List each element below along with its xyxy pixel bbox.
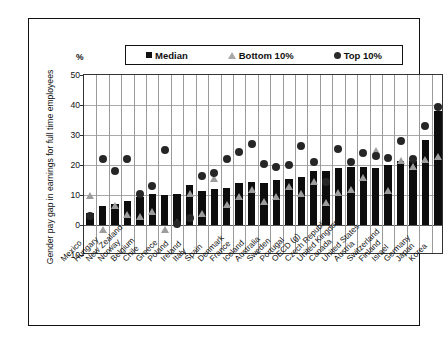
marker-top10 (198, 172, 206, 180)
legend-label-bottom10: Bottom 10% (239, 50, 294, 61)
marker-top10 (434, 103, 442, 111)
gridline-x (196, 75, 197, 253)
legend-label-top10: Top 10% (344, 50, 382, 61)
marker-top10 (359, 149, 367, 157)
plot-area: 50403020100-10 (83, 74, 443, 254)
gridline-y (84, 135, 442, 136)
marker-bottom10 (359, 174, 367, 181)
marker-bottom10 (123, 211, 131, 218)
marker-top10 (347, 158, 355, 166)
gridline-x (245, 75, 246, 253)
bar-median (136, 197, 143, 226)
y-tick-label: 10 (70, 190, 80, 200)
bar-median (235, 183, 242, 225)
y-tick-label: 30 (70, 130, 80, 140)
gridline-x (146, 75, 147, 253)
marker-bottom10 (322, 199, 330, 206)
bar-median (198, 191, 205, 226)
bar-median (273, 180, 280, 225)
y-axis-title: Gender pay gap in earnings for full time… (45, 67, 55, 267)
marker-top10 (372, 152, 380, 160)
y-tick-mark (80, 105, 84, 106)
y-tick-mark (80, 225, 84, 226)
gridline-x (382, 75, 383, 253)
circle-marker-icon (334, 52, 341, 59)
marker-bottom10 (434, 153, 442, 160)
marker-bottom10 (86, 192, 94, 199)
marker-top10 (384, 154, 392, 162)
marker-bottom10 (310, 178, 318, 185)
marker-top10 (409, 155, 417, 163)
marker-bottom10 (297, 190, 305, 197)
marker-top10 (421, 122, 429, 130)
marker-top10 (272, 163, 280, 171)
gridline-x (295, 75, 296, 253)
marker-top10 (223, 155, 231, 163)
marker-bottom10 (198, 210, 206, 217)
bar-median (372, 168, 379, 225)
gridline-x (370, 75, 371, 253)
marker-bottom10 (421, 156, 429, 163)
marker-bottom10 (161, 226, 169, 233)
marker-top10 (260, 160, 268, 168)
bar-median (422, 140, 429, 226)
marker-top10 (248, 140, 256, 148)
marker-top10 (210, 169, 218, 177)
bar-median (161, 195, 168, 225)
marker-bottom10 (384, 187, 392, 194)
legend-label-median: Median (155, 50, 188, 61)
marker-bottom10 (235, 193, 243, 200)
gridline-x (307, 75, 308, 253)
marker-bottom10 (409, 163, 417, 170)
marker-bottom10 (272, 193, 280, 200)
gridline-x (394, 75, 395, 253)
marker-top10 (297, 142, 305, 150)
gridline-x (221, 75, 222, 253)
gridline-x (258, 75, 259, 253)
bar-median (211, 189, 218, 225)
gridline-y (84, 105, 442, 106)
marker-top10 (322, 178, 330, 186)
bar-median (347, 167, 354, 226)
bar-median (298, 177, 305, 225)
gridline-y (84, 225, 442, 226)
marker-top10 (397, 137, 405, 145)
gridline-x (283, 75, 284, 253)
square-marker-icon (146, 52, 152, 58)
y-tick-label: 50 (70, 70, 80, 80)
gridline-x (183, 75, 184, 253)
gridline-x (345, 75, 346, 253)
marker-bottom10 (223, 201, 231, 208)
marker-top10 (310, 158, 318, 166)
marker-top10 (161, 146, 169, 154)
marker-top10 (186, 214, 194, 222)
marker-top10 (123, 155, 131, 163)
y-tick-mark (80, 195, 84, 196)
y-tick-mark (80, 75, 84, 76)
chart-legend: Median Bottom 10% Top 10% (125, 45, 403, 65)
gridline-x (171, 75, 172, 253)
y-tick-mark (80, 135, 84, 136)
gridline-x (432, 75, 433, 253)
marker-bottom10 (334, 189, 342, 196)
marker-top10 (136, 190, 144, 198)
bar-median (397, 161, 404, 226)
marker-top10 (235, 148, 243, 156)
gridline-x (109, 75, 110, 253)
y-tick-mark (80, 165, 84, 166)
axis-unit-label: % (76, 52, 84, 62)
marker-bottom10 (347, 186, 355, 193)
legend-item-bottom10: Bottom 10% (228, 50, 294, 61)
legend-item-top10: Top 10% (334, 50, 382, 61)
gridline-x (419, 75, 420, 253)
marker-top10 (148, 182, 156, 190)
chart-frame: Median Bottom 10% Top 10% % Gender pay g… (28, 18, 420, 326)
gridline-x (208, 75, 209, 253)
marker-bottom10 (111, 202, 119, 209)
marker-top10 (334, 145, 342, 153)
marker-bottom10 (136, 213, 144, 220)
y-tick-label: 40 (70, 100, 80, 110)
legend-item-median: Median (146, 50, 188, 61)
y-tick-label: 20 (70, 160, 80, 170)
gridline-x (158, 75, 159, 253)
